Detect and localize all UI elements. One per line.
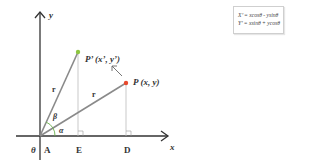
angle-alpha-label: α [59, 126, 64, 135]
point-P-label: P (x, y) [133, 77, 159, 87]
radius-r1-label: r [52, 85, 56, 94]
y-axis-label: y [48, 10, 54, 20]
rotation-formula-box: X’ = xcosθ - ysinθ Y’ = xsinθ + ycosθ [233, 6, 284, 34]
point-P-prime [76, 50, 80, 54]
radius-r2-label: r [92, 90, 96, 99]
foot-E-label: E [76, 145, 82, 155]
angle-beta-label: β [52, 112, 58, 121]
right-angle-E-icon [78, 131, 83, 136]
point-P [124, 81, 128, 85]
angle-beta-arc [46, 122, 53, 128]
foot-A-label: A [44, 145, 51, 155]
x-axis-label: x [169, 142, 175, 152]
formula-x-prime: X’ = xcosθ - ysinθ [238, 11, 283, 19]
origin-label: θ [31, 145, 36, 155]
point-P-prime-label: P’ (x’, y’) [85, 54, 120, 64]
right-angle-D-icon [126, 131, 131, 136]
formula-y-prime: Y’ = xsinθ + ycosθ [238, 19, 283, 27]
rotation-arrow-icon [112, 66, 122, 76]
foot-D-label: D [124, 145, 131, 155]
angle-alpha-arc [53, 128, 55, 136]
